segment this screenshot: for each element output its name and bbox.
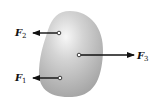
force-f3-label: F3 xyxy=(137,51,149,64)
rigid-body xyxy=(39,11,103,97)
free-body-diagram: F2 F3 F1 xyxy=(0,0,158,99)
force-f2-label: F2 xyxy=(15,28,27,41)
force-f1-label: F1 xyxy=(15,73,27,86)
